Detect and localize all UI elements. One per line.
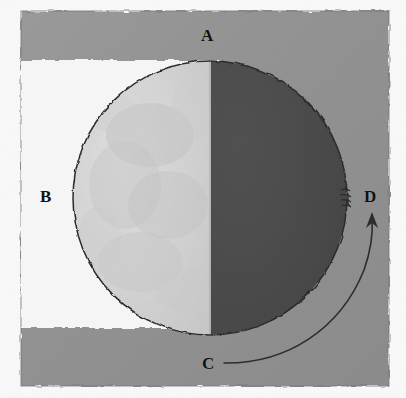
label-c: C xyxy=(202,355,215,372)
label-b: B xyxy=(40,188,52,205)
figure-canvas xyxy=(0,0,406,398)
label-d: D xyxy=(364,188,377,205)
label-a: A xyxy=(201,27,214,44)
astronomy-figure: A B C D xyxy=(0,0,406,398)
